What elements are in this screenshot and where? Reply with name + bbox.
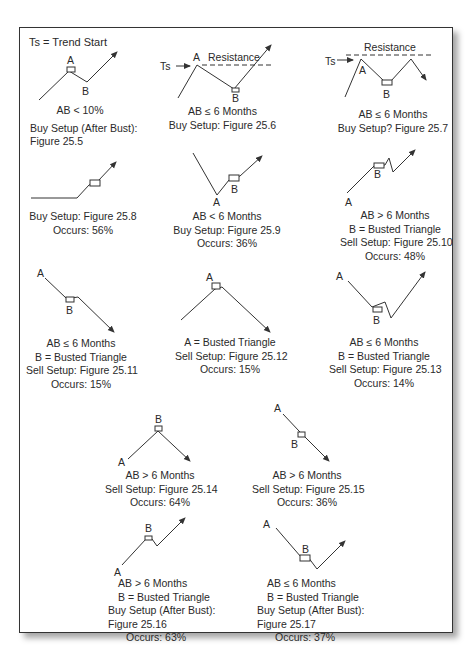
- label-a: A: [37, 267, 44, 280]
- label-a: A: [193, 51, 200, 64]
- label-ts: Ts: [160, 60, 171, 73]
- caption-25-6: AB ≤ 6 Months Buy Setup: Figure 25.6: [160, 105, 285, 132]
- label-b: B: [66, 304, 73, 317]
- label-b: B: [302, 543, 309, 556]
- label-a: A: [359, 64, 366, 77]
- caption-25-13: AB ≤ 6 Months B = Busted Triangle Sell S…: [329, 336, 439, 390]
- caption-25-5: AB < 10% Buy Setup (After Bust): Figure …: [30, 104, 140, 149]
- label-b: B: [383, 88, 390, 101]
- caption-25-15: AB > 6 Months Sell Setup: Figure 25.15 O…: [252, 469, 362, 510]
- caption-25-11: AB ≤ 6 Months B = Busted Triangle Sell S…: [26, 337, 136, 391]
- caption-25-16: AB > 6 Months B = Busted Triangle Buy Se…: [108, 577, 223, 645]
- caption-25-12: A = Busted Triangle Sell Setup: Figure 2…: [175, 336, 285, 377]
- sketch-25-12: [181, 283, 270, 332]
- label-b: B: [82, 85, 89, 98]
- sketch-25-13: [348, 272, 425, 318]
- sketch-25-5: [39, 52, 117, 100]
- label-resistance: Resistance: [364, 41, 416, 54]
- legend-trend-start: Ts = Trend Start: [29, 36, 107, 48]
- sketch-25-17: [276, 528, 345, 569]
- caption-25-9: AB < 6 Months Buy Setup: Figure 25.9 Occ…: [172, 210, 282, 251]
- label-a: A: [274, 402, 281, 415]
- label-a: A: [336, 270, 343, 283]
- label-ts: Ts: [325, 55, 336, 68]
- sketch-25-11: [45, 278, 114, 332]
- label-resistance: Resistance: [208, 51, 260, 64]
- label-a: A: [206, 271, 213, 284]
- caption-25-14: AB > 6 Months Sell Setup: Figure 25.14 O…: [105, 469, 215, 510]
- label-a: A: [118, 456, 125, 469]
- sketch-25-14: [128, 426, 190, 461]
- label-a: A: [345, 196, 352, 209]
- sketch-25-9: [193, 153, 262, 195]
- caption-25-8: Buy Setup: Figure 25.8 Occurs: 56%: [28, 210, 138, 237]
- label-b: B: [231, 183, 238, 196]
- label-b: B: [374, 168, 381, 181]
- label-b: B: [373, 314, 380, 327]
- label-b: B: [155, 413, 162, 426]
- sketch-25-16: [122, 518, 185, 565]
- caption-25-17: AB ≤ 6 Months B = Busted Triangle Buy Se…: [257, 577, 372, 645]
- label-a: A: [263, 518, 270, 531]
- label-b: B: [145, 522, 152, 535]
- sketch-25-8: [31, 162, 116, 198]
- label-b: B: [232, 92, 239, 105]
- caption-25-10: AB > 6 Months B = Busted Triangle Sell S…: [340, 209, 450, 263]
- label-a: A: [213, 196, 220, 209]
- label-a: A: [67, 54, 74, 67]
- label-b: B: [291, 438, 298, 451]
- sketch-25-15: [283, 414, 329, 461]
- caption-25-7: AB ≤ 6 Months Buy Setup? Figure 25.7: [333, 108, 453, 135]
